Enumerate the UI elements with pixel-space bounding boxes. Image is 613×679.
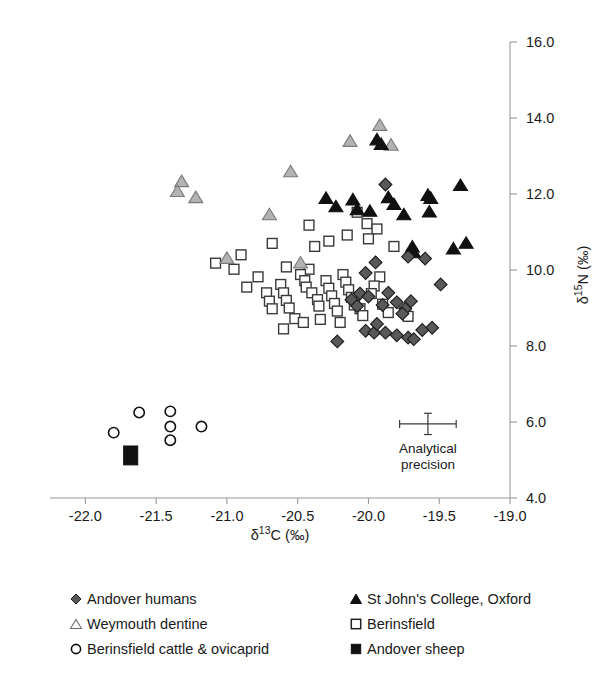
data-point (284, 165, 298, 177)
x-tick-label: -19.0 (493, 508, 526, 524)
legend-item-andover-sheep[interactable]: Andover sheep (348, 636, 598, 661)
data-point (284, 303, 294, 313)
data-point (358, 311, 368, 321)
data-point (346, 193, 360, 205)
data-point (459, 237, 473, 249)
plot-canvas: -22.0-21.5-21.0-20.5-20.0-19.5-19.0 4.06… (0, 0, 613, 679)
data-point (342, 230, 352, 240)
axis-spines (50, 42, 510, 498)
legend-item-berinsfield-cattle-ovicaprid[interactable]: Berinsfield cattle & ovicaprid (68, 636, 348, 661)
data-point (434, 278, 447, 291)
y-tick-label: 4.0 (526, 490, 546, 506)
data-point (359, 267, 372, 280)
series-berinsfield (211, 207, 413, 333)
legend-column-left: Andover humansWeymouth dentineBerinsfiel… (68, 586, 348, 661)
data-point (419, 252, 432, 265)
x-tick-label: -21.5 (140, 508, 173, 524)
data-point (343, 135, 357, 147)
data-point (362, 219, 372, 229)
analytical-precision-annotation: Analyticalprecision (399, 413, 457, 471)
data-point (372, 224, 382, 234)
legend-item-label: Andover humans (87, 591, 197, 607)
open-triangle-grey-icon (68, 616, 84, 632)
legend-item-berinsfield[interactable]: Berinsfield (348, 611, 598, 636)
y-axis-ticks: 4.06.08.010.012.014.016.0 (510, 34, 554, 506)
data-point (294, 256, 308, 268)
data-point (236, 250, 246, 260)
legend-item-label: St John's College, Oxford (367, 591, 531, 607)
data-point (369, 256, 382, 269)
data-point (379, 178, 392, 191)
y-tick-label: 12.0 (526, 186, 554, 202)
filled-square-black-icon (348, 641, 364, 657)
data-point (382, 286, 395, 299)
y-tick-label: 6.0 (526, 414, 546, 430)
series-andover-sheep (124, 446, 138, 465)
data-point (335, 318, 345, 328)
data-points-layer (109, 119, 474, 465)
data-point (310, 242, 320, 252)
data-point (375, 272, 385, 282)
chart-legend: Andover humansWeymouth dentineBerinsfiel… (46, 586, 586, 666)
data-point (416, 324, 429, 337)
data-point (262, 208, 276, 220)
legend-marker-filled-square-black (348, 641, 364, 657)
data-point (267, 304, 277, 314)
data-point (242, 282, 252, 292)
y-tick-label: 10.0 (526, 262, 554, 278)
data-point (422, 206, 436, 218)
data-point (229, 264, 239, 274)
x-tick-label: -22.0 (69, 508, 102, 524)
data-point (196, 421, 206, 431)
data-point (331, 335, 344, 348)
data-point (446, 242, 460, 254)
data-point (379, 326, 392, 339)
data-point (364, 234, 374, 244)
x-axis-title: δ13C (‰) (251, 524, 309, 543)
y-tick-label: 14.0 (526, 110, 554, 126)
series-weymouth-dentine (170, 119, 398, 268)
isotope-scatter-figure: -22.0-21.5-21.0-20.5-20.0-19.5-19.0 4.06… (0, 0, 613, 679)
legend-item-label: Weymouth dentine (87, 616, 208, 632)
open-circle-icon (68, 641, 84, 657)
filled-triangle-black-icon (348, 591, 364, 607)
data-point (220, 252, 234, 264)
data-point (165, 406, 175, 416)
filled-diamond-grey-icon (68, 591, 84, 607)
data-point (304, 220, 314, 230)
data-point (211, 258, 221, 268)
data-point (134, 407, 144, 417)
data-point (165, 421, 175, 431)
legend-marker-filled-diamond-grey (68, 591, 84, 607)
data-point (324, 236, 334, 246)
legend-marker-filled-triangle-black (348, 591, 364, 607)
data-point (390, 329, 403, 342)
data-point (453, 179, 467, 191)
y-axis-title: δ15N (‰) (572, 246, 591, 304)
legend-item-weymouth-dentine[interactable]: Weymouth dentine (68, 611, 348, 636)
data-point (165, 435, 175, 445)
series-berinsfield-cattle-ovicaprid (109, 406, 207, 445)
data-point (124, 446, 138, 465)
data-point (373, 119, 387, 131)
y-tick-label: 8.0 (526, 338, 546, 354)
data-point (189, 191, 203, 203)
x-axis-ticks: -22.0-21.5-21.0-20.5-20.0-19.5-19.0 (69, 498, 527, 524)
data-point (315, 315, 325, 325)
legend-marker-open-square (348, 616, 364, 632)
legend-item-andover-humans[interactable]: Andover humans (68, 586, 348, 611)
legend-marker-open-triangle-grey (68, 616, 84, 632)
legend-item-st-john-s-college-oxford[interactable]: St John's College, Oxford (348, 586, 598, 611)
precision-label-line1: Analytical (399, 441, 457, 456)
data-point (314, 301, 324, 311)
data-point (109, 427, 119, 437)
data-point (332, 306, 342, 316)
data-point (389, 242, 399, 252)
data-point (363, 205, 377, 217)
data-point (253, 272, 263, 282)
legend-column-right: St John's College, OxfordBerinsfieldAndo… (348, 586, 598, 661)
data-point (279, 324, 289, 334)
data-point (281, 262, 291, 272)
x-tick-label: -19.5 (423, 508, 456, 524)
legend-marker-open-circle (68, 641, 84, 657)
